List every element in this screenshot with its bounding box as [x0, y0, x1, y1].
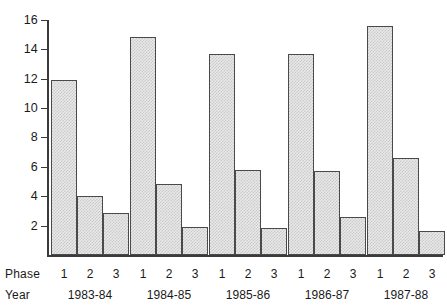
bar: [130, 37, 156, 255]
y-axis-tick-label: 16: [4, 14, 38, 27]
phase-number-label: 2: [82, 268, 98, 280]
y-axis-tick-label: 6: [4, 161, 38, 174]
bar: [51, 80, 77, 255]
year-group-label: 1985-86: [205, 289, 291, 301]
phase-row-label: Phase: [5, 268, 40, 280]
year-group-label: 1987-88: [363, 289, 447, 301]
bar: [209, 54, 235, 255]
y-axis-tick: [41, 108, 48, 109]
year-row-label: Year: [5, 289, 30, 301]
year-group-label: 1983-84: [47, 289, 133, 301]
phase-number-label: 3: [345, 268, 361, 280]
year-group-label: 1984-85: [126, 289, 212, 301]
y-axis-tick: [41, 79, 48, 80]
y-axis-tick-label: 10: [4, 102, 38, 115]
bar: [288, 54, 314, 255]
phase-number-label: 3: [108, 268, 124, 280]
bar: [156, 184, 182, 255]
y-axis-tick: [41, 196, 48, 197]
y-axis-tick-label: 14: [4, 43, 38, 56]
y-axis-tick: [41, 49, 48, 50]
phase-number-label: 1: [56, 268, 72, 280]
bar: [340, 217, 366, 255]
bar: [77, 196, 103, 255]
y-axis-tick: [41, 226, 48, 227]
year-group-label: 1986-87: [284, 289, 370, 301]
phase-number-label: 2: [161, 268, 177, 280]
phase-number-label: 2: [319, 268, 335, 280]
bar: [261, 228, 287, 255]
bar: [367, 26, 393, 255]
bar: [182, 227, 208, 255]
bar: [235, 170, 261, 255]
bar: [103, 213, 129, 255]
phase-number-label: 2: [398, 268, 414, 280]
phase-number-label: 1: [293, 268, 309, 280]
y-axis-tick: [41, 20, 48, 21]
y-axis-tick: [41, 167, 48, 168]
y-axis-tick: [41, 137, 48, 138]
x-axis-labels: Phase Year 123123123123123 1983-841984-8…: [0, 262, 447, 306]
bar: [393, 158, 419, 255]
phase-number-label: 1: [214, 268, 230, 280]
y-axis-tick-label: 12: [4, 73, 38, 86]
x-axis-line: [47, 255, 443, 257]
bar: [419, 231, 445, 255]
plot-area: [49, 16, 443, 255]
phase-number-label: 3: [266, 268, 282, 280]
phase-number-label: 1: [135, 268, 151, 280]
phase-number-label: 1: [372, 268, 388, 280]
y-axis-tick-label: 4: [4, 190, 38, 203]
phase-number-label: 2: [240, 268, 256, 280]
y-axis-tick-label: 2: [4, 220, 38, 233]
phase-number-label: 3: [187, 268, 203, 280]
bar-chart: 246810121416 Phase Year 123123123123123 …: [0, 0, 447, 306]
phase-number-label: 3: [424, 268, 440, 280]
y-axis-tick-label: 8: [4, 131, 38, 144]
bar: [314, 171, 340, 255]
